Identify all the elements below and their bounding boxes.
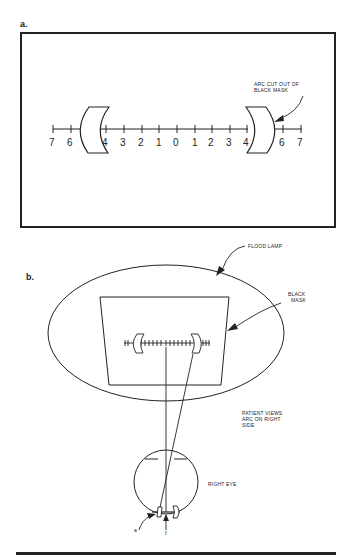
scale-num: 4 [243,137,249,148]
patient-views-label-line3: SIDE [242,422,255,428]
scale-num: 0 [173,137,179,148]
arrowhead-icon [227,323,238,331]
black-mask-label-line2: MASK [291,297,306,303]
right-eye-label: RIGHT EYE [208,481,237,487]
scale-num: 2 [138,137,144,148]
scale-num: 7 [49,137,55,148]
marker-f-label: f [165,530,167,536]
flood-lamp-label: FLOOD LAMP [248,243,283,249]
scale-num: 3 [226,137,232,148]
scale-num: 1 [192,137,198,148]
bottom-rule [16,552,336,555]
flood-lamp-arrow [222,246,245,270]
panel-a-frame [21,33,335,227]
arrowhead-icon [216,266,225,276]
right-arc-cutout [246,107,275,153]
scale-num: 2 [208,137,214,148]
scale-num: 6 [279,137,285,148]
panel-a-label: a. [20,19,28,29]
arrowhead-icon [163,514,169,521]
scale-num: 7 [297,137,303,148]
panel-b-label: b. [26,272,34,282]
arrowhead-icon [147,513,156,519]
retinal-left-arc [157,507,162,517]
marker-a-label: a [134,527,137,533]
black-mask-trapezoid [100,297,229,385]
scale-num: 1 [156,137,162,148]
diagram-canvas: a. 7 6 4 3 2 1 0 1 2 3 4 6 7 [0,0,349,558]
arc-cutout-label-line2: BLACK MASK [254,87,288,93]
black-mask-arrow [234,303,281,328]
arrowhead-icon [274,115,284,122]
marker-a-arrow [139,516,150,530]
scale-num: 6 [67,137,73,148]
scale-num: 3 [120,137,126,148]
